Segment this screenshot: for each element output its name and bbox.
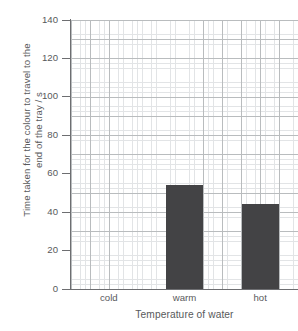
x-axis-label-warm: warm (173, 292, 196, 304)
bar-chart: Time taken for the colour to travel to t… (0, 0, 298, 331)
y-axis-tick (62, 173, 70, 174)
y-axis-tick-label: 120 (18, 53, 58, 63)
plot-area (71, 20, 298, 289)
y-axis-tick (62, 289, 70, 290)
y-axis-tick-label: 80 (18, 130, 58, 140)
y-axis-line (70, 19, 71, 290)
y-axis-tick-label: 140 (18, 15, 58, 25)
y-axis-tick-label: 40 (18, 207, 58, 217)
y-axis-tick (62, 58, 70, 59)
y-axis-tick (62, 96, 70, 97)
y-axis-tick (62, 20, 70, 21)
x-axis-label-hot: hot (253, 292, 266, 304)
x-axis-title: Temperature of water (71, 308, 298, 321)
y-axis-tick (62, 135, 70, 136)
y-axis-tick (62, 250, 70, 251)
y-axis-tick-label: 60 (18, 168, 58, 178)
y-axis-tick-label: 20 (18, 245, 58, 255)
bar-hot (242, 204, 279, 289)
x-axis-line (70, 289, 298, 290)
bar-warm (166, 185, 203, 289)
y-axis-tick-label: 100 (18, 91, 58, 101)
y-axis-tick (62, 212, 70, 213)
y-axis-tick-label: 0 (18, 284, 58, 294)
x-axis-label-cold: cold (100, 292, 118, 304)
